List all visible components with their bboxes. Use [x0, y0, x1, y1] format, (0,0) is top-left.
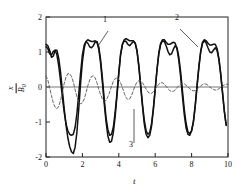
- y-tick-label: 0: [38, 83, 42, 92]
- y-axis-label: x B0: [4, 72, 30, 104]
- y-tick-label: 2: [38, 13, 42, 22]
- x-tick-label: 0: [44, 160, 48, 169]
- y-tick-label: 1: [38, 48, 42, 57]
- figure-container: x B0 t 0246810210-1-2 123: [0, 0, 245, 194]
- x-tick-label: 8: [190, 160, 194, 169]
- chart-plot-area: 0246810210-1-2 123: [0, 0, 245, 194]
- y-axis-label-numerator: x: [7, 85, 15, 91]
- annotation-label-3: 3: [129, 140, 133, 149]
- annotation-label-1: 1: [103, 15, 107, 24]
- x-axis-label: t: [133, 176, 136, 186]
- y-tick-label: -2: [35, 153, 42, 162]
- x-tick-label: 2: [80, 160, 84, 169]
- y-tick-label: -1: [35, 118, 42, 127]
- x-tick-label: 6: [153, 160, 157, 169]
- annotation-label-2: 2: [175, 13, 179, 22]
- x-tick-label: 4: [117, 160, 121, 169]
- x-tick-label: 10: [224, 160, 232, 169]
- y-axis-label-denominator: B0: [18, 83, 28, 93]
